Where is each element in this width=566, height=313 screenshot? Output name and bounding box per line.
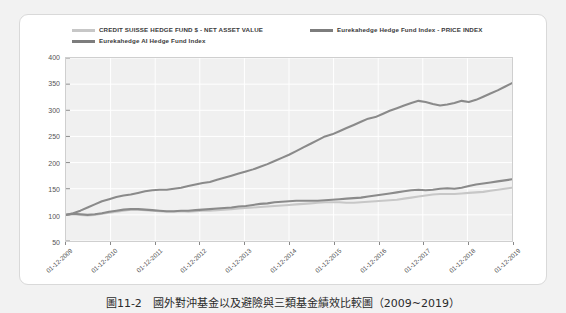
legend-label-credit-suisse: CREDIT SUISSE HEDGE FUND $ - NET ASSET V…: [99, 26, 263, 34]
y-tick-350: 350: [48, 80, 60, 87]
x-tick-mark: [244, 242, 245, 245]
x-tick-mark: [513, 242, 514, 245]
y-tick-250: 250: [48, 133, 60, 140]
x-tick-mark: [289, 242, 290, 245]
x-tick-mark: [110, 242, 111, 245]
figure-caption: 圖11-2 國外對沖基金以及避險與三類基金績效比較圖（2009~2019）: [0, 294, 566, 310]
x-tick-01-12-2010: 01-12-2010: [89, 247, 118, 274]
y-tick-200: 200: [48, 159, 60, 166]
x-tick-mark: [199, 242, 200, 245]
legend-swatch-price-index: [310, 29, 333, 32]
legend-label-ai-index: Eurekahedge AI Hedge Fund Index: [99, 37, 206, 45]
y-tick-50: 50: [52, 239, 60, 246]
x-tick-mark: [423, 242, 424, 245]
legend-swatch-ai-index: [72, 40, 95, 43]
x-tick-mark: [155, 242, 156, 245]
chart-svg: [66, 58, 512, 241]
legend-item-ai-index[interactable]: Eurekahedge AI Hedge Fund Index: [72, 37, 512, 45]
x-tick-01-12-2019: 01-12-2019: [493, 247, 522, 274]
x-tick-mark: [468, 242, 469, 245]
x-tick-01-12-2009: 01-12-2009: [45, 247, 74, 274]
chart-plot-area: 50100150200250300350400 01-12-200901-12-…: [20, 57, 548, 286]
y-tick-100: 100: [48, 212, 60, 219]
x-tick-01-12-2012: 01-12-2012: [179, 247, 208, 274]
y-tick-150: 150: [48, 186, 60, 193]
x-tick-01-12-2018: 01-12-2018: [448, 247, 477, 274]
legend-item-price-index[interactable]: Eurekahedge Hedge Fund Index - PRICE IND…: [310, 26, 510, 34]
x-tick-mark: [334, 242, 335, 245]
y-tick-400: 400: [48, 54, 60, 61]
chart-legend: CREDIT SUISSE HEDGE FUND $ - NET ASSET V…: [72, 26, 512, 48]
chart-canvas: [65, 57, 513, 242]
figure-card: CREDIT SUISSE HEDGE FUND $ - NET ASSET V…: [19, 14, 547, 285]
x-tick-01-12-2011: 01-12-2011: [135, 247, 164, 274]
x-tick-01-12-2016: 01-12-2016: [358, 247, 387, 274]
y-axis-labels: 50100150200250300350400: [34, 57, 60, 242]
x-tick-01-12-2017: 01-12-2017: [403, 247, 432, 274]
x-tick-01-12-2015: 01-12-2015: [313, 247, 342, 274]
y-tick-300: 300: [48, 106, 60, 113]
x-tick-mark: [379, 242, 380, 245]
x-tick-mark: [65, 242, 66, 245]
legend-label-price-index: Eurekahedge Hedge Fund Index - PRICE IND…: [337, 26, 483, 34]
x-tick-01-12-2014: 01-12-2014: [269, 247, 298, 274]
legend-swatch-credit-suisse: [72, 29, 95, 32]
x-axis-labels: 01-12-200901-12-201001-12-201101-12-2012…: [65, 242, 513, 286]
legend-item-credit-suisse[interactable]: CREDIT SUISSE HEDGE FUND $ - NET ASSET V…: [72, 26, 310, 34]
x-tick-01-12-2013: 01-12-2013: [224, 247, 253, 274]
